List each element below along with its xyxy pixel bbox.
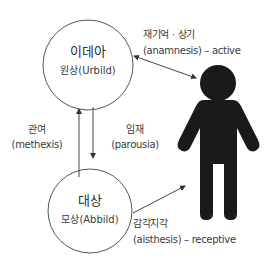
person-icon — [178, 65, 260, 220]
idea-title: 이데아 — [43, 44, 133, 59]
aisthesis-label: 감각지각 — [133, 218, 236, 230]
double-arrow — [134, 56, 196, 78]
aisthesis-sublabel: (aisthesis) – receptive — [133, 234, 236, 246]
single-arrow — [133, 186, 185, 213]
anamnesis-label: 재기억 · 상기 — [143, 29, 241, 41]
anamnesis-sublabel: (anamnesis) – active — [143, 45, 241, 57]
parousia-sublabel: (parousia) — [108, 139, 162, 151]
parousia-label: 임재 — [108, 124, 162, 136]
methexis-sublabel: (methexis) — [10, 139, 64, 151]
idea-subtitle: 원상(Urbild) — [43, 65, 133, 77]
object-subtitle: 모상(Abbild) — [45, 214, 135, 226]
methexis-label: 관여 — [10, 124, 64, 136]
object-title: 대상 — [45, 193, 135, 208]
